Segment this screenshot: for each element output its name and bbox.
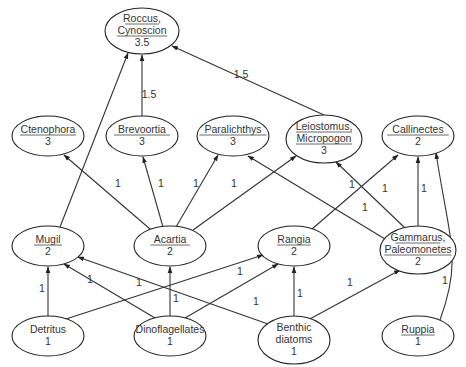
edge-weight-label: 1.5 <box>142 88 157 100</box>
edge-weight-label: 1 <box>382 182 388 194</box>
node-taxon-label: Detritus <box>30 323 66 335</box>
edge-acartia-to-brevoortia: 1 <box>143 157 164 227</box>
node-acartia: Acartia2 <box>134 226 206 266</box>
node-callinectes: Callinectes2 <box>382 116 454 156</box>
edge-weight-label: 1 <box>253 295 259 307</box>
node-trophic-level: 2 <box>167 245 173 257</box>
edge-dinoflagellates-to-mugil: 1 <box>64 264 155 318</box>
food-web-diagram: 1.51.51.511111111111111111 Roccus,Cynosc… <box>0 0 466 367</box>
edge-acartia-to-leiostomus: 1 <box>193 156 296 230</box>
arrow-line <box>185 264 278 318</box>
node-taxon-label: Micropogon <box>297 132 352 144</box>
edge-gammarus-to-leiostomus: 1 <box>336 162 405 228</box>
edge-weight-label: 1 <box>297 287 303 299</box>
node-leiostomus: Leiostomus,Micropogon3 <box>286 115 362 163</box>
node-taxon-label: Ruppia <box>401 323 434 335</box>
node-roccus: Roccus,Cynoscion3.5 <box>105 8 179 54</box>
node-taxon-label: Brevoortia <box>118 123 166 135</box>
edge-weight-label: 1 <box>442 274 448 286</box>
node-rangia: Rangia2 <box>258 226 330 266</box>
node-taxon-label: Cynoscion <box>117 24 166 36</box>
node-brevoortia: Brevoortia3 <box>106 116 178 156</box>
edge-benthic-to-rangia: 1 <box>294 267 303 316</box>
node-trophic-level: 2 <box>415 135 421 147</box>
node-dinoflagellates: Dinoflagellates1 <box>134 316 206 356</box>
edge-leiostomus-to-roccus: 1.5 <box>172 46 324 115</box>
node-taxon-label: Ctenophora <box>21 123 76 135</box>
arrow-line <box>308 270 400 320</box>
edge-weight-label: 1 <box>231 177 237 189</box>
edge-dinoflagellates-to-acartia: 1 <box>170 267 179 316</box>
node-taxon-label: Acartia <box>154 233 187 245</box>
arrow-line <box>336 162 405 228</box>
arrow-line <box>193 156 296 230</box>
node-taxon-label: Paleomonetes <box>384 243 451 255</box>
edges-layer: 1.51.51.511111111111111111 <box>35 46 452 324</box>
node-trophic-level: 3 <box>230 135 236 147</box>
node-mugil: Mugil2 <box>12 226 84 266</box>
node-ctenophora: Ctenophora3 <box>12 116 84 156</box>
node-taxon-label: diatoms <box>276 333 313 345</box>
edge-weight-label: 1 <box>173 292 179 304</box>
node-trophic-level: 3.5 <box>135 36 150 48</box>
node-trophic-level: 3 <box>321 144 327 156</box>
node-trophic-level: 2 <box>45 245 51 257</box>
edge-weight-label: 1 <box>347 276 353 288</box>
edge-benthic-to-gammarus: 1 <box>308 270 400 320</box>
node-taxon-label: Dinoflagellates <box>136 323 205 335</box>
edge-weight-label: 1.5 <box>234 68 249 80</box>
node-trophic-level: 1 <box>167 335 173 347</box>
node-trophic-level: 3 <box>139 135 145 147</box>
edge-gammarus-to-paralichthys: 1 <box>248 156 385 239</box>
node-taxon-label: Callinectes <box>392 123 443 135</box>
edge-brevoortia-to-roccus: 1.5 <box>142 55 157 116</box>
node-ruppia: Ruppia1 <box>382 316 454 356</box>
node-trophic-level: 2 <box>291 245 297 257</box>
edge-weight-label: 1 <box>115 177 121 189</box>
node-taxon-label: Gammarus, <box>391 231 446 243</box>
node-paralichthys: Paralichthys3 <box>197 116 269 156</box>
edge-weight-label: 1 <box>193 177 199 189</box>
edge-weight-label: 1 <box>39 282 45 294</box>
node-trophic-level: 3 <box>45 135 51 147</box>
edge-weight-label: 1 <box>87 273 93 285</box>
node-benthic: Benthicdiatoms1 <box>258 316 330 364</box>
node-trophic-level: 1 <box>45 335 51 347</box>
edge-weight-label: 1 <box>421 182 427 194</box>
edge-acartia-to-ctenophora: 1 <box>64 155 150 229</box>
node-detritus: Detritus1 <box>12 316 84 356</box>
edge-weight-label: 1 <box>136 276 142 288</box>
edge-weight-label: 1 <box>158 177 164 189</box>
arrow-line <box>64 155 150 229</box>
edge-dinoflagellates-to-rangia: 1 <box>185 264 278 318</box>
edge-weight-label: 1 <box>362 201 368 213</box>
node-trophic-level: 1 <box>415 335 421 347</box>
arrow-line <box>248 156 385 239</box>
node-taxon-label: Roccus, <box>123 12 161 24</box>
node-trophic-level: 2 <box>415 255 421 267</box>
node-taxon-label: Benthic <box>276 321 311 333</box>
node-taxon-label: Leiostomus, <box>296 120 353 132</box>
edge-detritus-to-mugil: 1 <box>39 267 48 316</box>
node-trophic-level: 1 <box>291 345 297 357</box>
edge-weight-label: 1 <box>237 265 243 277</box>
arrow-line <box>64 264 155 318</box>
node-gammarus: Gammarus,Paleomonetes2 <box>380 226 456 274</box>
node-taxon-label: Rangia <box>277 233 310 245</box>
node-taxon-label: Mugil <box>35 233 60 245</box>
arrow-line <box>143 157 163 227</box>
arrow-line <box>172 46 324 115</box>
node-taxon-label: Paralichthys <box>204 123 261 135</box>
edge-weight-label: 1 <box>349 178 355 190</box>
edge-gammarus-to-callinectes: 1 <box>418 157 427 226</box>
